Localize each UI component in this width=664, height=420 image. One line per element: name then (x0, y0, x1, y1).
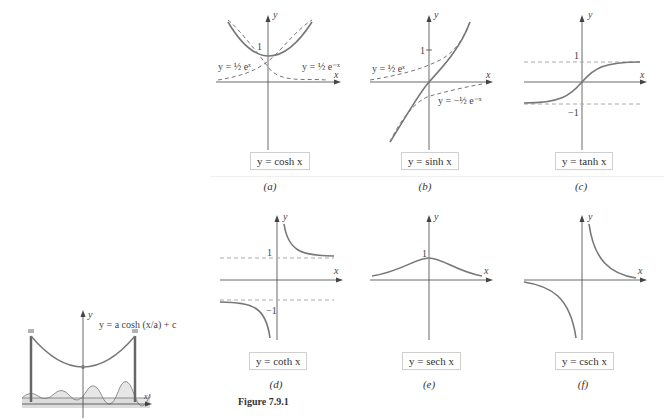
caption-cosh: y = cosh x (250, 152, 310, 170)
sublabel-b: (b) (405, 180, 445, 192)
svg-text:x: x (485, 69, 491, 80)
x-axis-label: x (143, 392, 148, 401)
caption-csch: y = csch x (555, 352, 614, 370)
svg-text:y = −½ e⁻ˣ: y = −½ e⁻ˣ (438, 95, 482, 106)
svg-text:−1: −1 (266, 305, 277, 316)
svg-text:x: x (639, 69, 645, 80)
svg-text:1: 1 (420, 45, 425, 56)
sublabel-e: (e) (409, 378, 449, 390)
svg-text:−1: −1 (568, 107, 579, 118)
svg-text:x: x (483, 265, 489, 276)
svg-text:y = ½ eˣ: y = ½ eˣ (372, 63, 405, 74)
catenary-equation: y = a cosh (x/a) + c (99, 319, 177, 331)
svg-text:y: y (272, 9, 278, 20)
sublabel-a: (a) (250, 180, 290, 192)
svg-text:y: y (433, 211, 439, 222)
sublabel-f: (f) (563, 378, 603, 390)
divider (210, 176, 664, 177)
caption-sech: y = sech x (402, 352, 461, 370)
sublabel-d: (d) (256, 378, 296, 390)
plot-sech: y x 1 (360, 200, 510, 360)
svg-text:y = ½ e⁻ˣ: y = ½ e⁻ˣ (302, 61, 340, 72)
svg-text:x: x (333, 265, 339, 276)
svg-text:y: y (433, 9, 439, 20)
caption-coth: y = coth x (249, 352, 307, 370)
svg-text:1: 1 (257, 41, 262, 52)
svg-text:x: x (637, 265, 643, 276)
caption-sinh: y = sinh x (401, 152, 459, 170)
plot-cosh: y x 1 y = ½ eˣ y = ½ e⁻ˣ (210, 0, 360, 160)
plot-tanh: y x 1 −1 (500, 0, 664, 160)
plot-sinh: y x 1 y = ½ eˣ y = −½ e⁻ˣ (360, 0, 510, 160)
svg-text:y = ½ eˣ: y = ½ eˣ (218, 61, 251, 72)
svg-text:1: 1 (422, 248, 427, 259)
figure-label: Figure 7.9.1 (238, 396, 289, 407)
y-axis-label: y (87, 309, 93, 320)
svg-text:y: y (587, 9, 593, 20)
svg-text:y: y (587, 211, 593, 222)
svg-text:1: 1 (574, 50, 579, 61)
plot-coth: y x 1 −1 (210, 200, 360, 360)
plot-csch: y x (500, 200, 664, 360)
svg-text:1: 1 (267, 247, 272, 258)
sublabel-c: (c) (561, 180, 601, 192)
svg-text:y: y (282, 211, 288, 222)
catenary-diagram: y x y = a cosh (x/a) + c (0, 290, 210, 420)
caption-tanh: y = tanh x (555, 152, 613, 170)
